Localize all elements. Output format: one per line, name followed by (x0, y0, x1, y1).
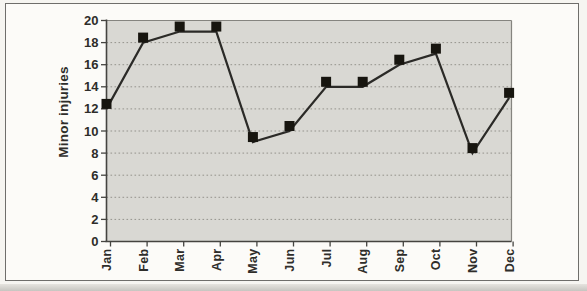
y-tick-label: 16 (84, 57, 98, 72)
x-tick-label: Aug (356, 249, 370, 274)
data-point-marker (211, 22, 221, 32)
x-tick-label: May (246, 249, 260, 274)
data-point-marker (504, 88, 514, 98)
data-point-marker (394, 55, 404, 65)
y-tick-label: 12 (84, 101, 98, 116)
y-tick-label: 4 (91, 190, 99, 205)
data-point-marker (102, 99, 112, 109)
y-tick-label: 10 (84, 124, 98, 139)
x-tick-label: Jun (283, 249, 297, 272)
data-point-marker (431, 44, 441, 54)
data-point-marker (138, 33, 148, 43)
data-point-marker (468, 143, 478, 153)
line-chart: 02468101214161820JanFebMarAprMayJunJulAu… (0, 0, 587, 291)
x-tick-label: Jul (320, 249, 334, 268)
x-tick-label: Mar (173, 249, 187, 272)
y-tick-label: 18 (84, 35, 98, 50)
data-point-marker (358, 77, 368, 87)
y-tick-label: 2 (91, 212, 98, 227)
y-tick-label: 14 (84, 79, 99, 94)
x-tick-label: Dec (503, 249, 517, 273)
y-axis-title: Minor injuries (56, 66, 71, 157)
x-tick-label: Oct (429, 248, 443, 270)
y-tick-label: 20 (84, 13, 98, 28)
y-tick-label: 6 (91, 168, 98, 183)
x-tick-label: Feb (137, 248, 151, 271)
y-tick-label: 0 (91, 234, 98, 249)
y-tick-label: 8 (91, 146, 98, 161)
data-point-marker (248, 132, 258, 142)
x-tick-label: Apr (210, 249, 224, 271)
figure-canvas: 02468101214161820JanFebMarAprMayJunJulAu… (0, 0, 587, 291)
x-tick-label: Sep (393, 248, 407, 272)
data-point-marker (175, 22, 185, 32)
x-tick-label: Jan (100, 249, 114, 271)
x-tick-label: Nov (466, 249, 480, 274)
data-point-marker (285, 121, 295, 131)
data-point-marker (321, 77, 331, 87)
scan-edge-strip (0, 284, 587, 291)
